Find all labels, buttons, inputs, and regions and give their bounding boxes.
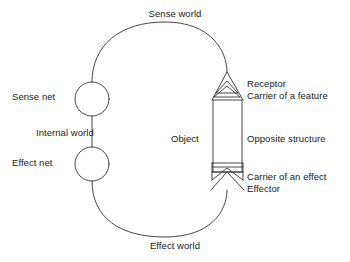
- label-sense-world: Sense world: [0, 8, 350, 19]
- effector-chevron-2: [211, 172, 244, 190]
- sense-world-arc: [92, 22, 227, 82]
- effector-chevron-1: [212, 168, 243, 180]
- label-sense-net: Sense net: [12, 91, 55, 102]
- label-internal-world: Internal world: [36, 127, 94, 138]
- label-effect-net: Effect net: [12, 157, 52, 168]
- label-opposite-structure: Opposite structure: [247, 133, 326, 144]
- label-effect-world: Effect world: [0, 240, 350, 251]
- label-carrier-of-an-effect: Carrier of an effect: [247, 171, 327, 182]
- effect-net-circle: [75, 147, 109, 181]
- label-carrier-of-a-feature: Carrier of a feature: [247, 90, 328, 101]
- effect-world-arc: [92, 181, 227, 237]
- sense-net-circle: [75, 82, 109, 116]
- functional-cycle-diagram: Sense world Effect world Sense net Effec…: [0, 0, 350, 262]
- label-object: Object: [171, 133, 199, 144]
- label-receptor: Receptor: [247, 78, 286, 89]
- label-effector: Effector: [247, 183, 280, 194]
